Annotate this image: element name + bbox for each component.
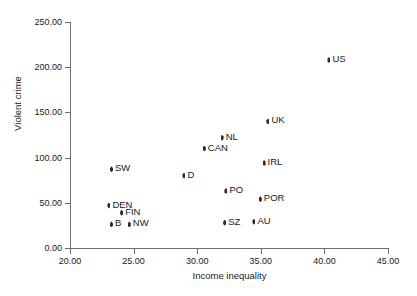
data-point-label: POR [264,192,285,203]
x-axis-tick-label: 35.00 [236,256,286,266]
plot-area: USUKNLCANIRLSWDPOPORDENFINSZAUBNW [70,22,388,248]
data-point-label: CAN [208,142,228,153]
y-axis-tick-label: 50.00 [16,198,62,208]
data-point-label: SZ [228,216,240,227]
data-point-marker [182,173,185,179]
data-point-marker [107,203,110,209]
scatter-chart: 0.0050.00100.00150.00200.00250.00 20.002… [0,0,417,296]
x-axis-tick-label: 25.00 [109,256,159,266]
data-point-label: PO [229,184,243,195]
data-point-label: SW [115,162,130,173]
data-point-marker [224,188,227,194]
data-point-label: FIN [125,206,140,217]
data-point-marker [252,219,255,225]
data-point-label: US [332,53,345,64]
data-point-marker [263,160,266,166]
data-point-label: D [187,169,194,180]
x-axis-line [70,248,389,249]
data-point-label: AU [257,215,270,226]
x-axis-tick [197,249,198,254]
y-axis-tick-label: 200.00 [16,62,62,72]
x-axis-tick-label: 45.00 [363,256,413,266]
x-axis-tick [134,249,135,254]
data-point-label: NW [133,217,149,228]
data-point-marker [120,210,123,216]
y-axis-tick-label: 250.00 [16,17,62,27]
x-axis-tick-label: 40.00 [299,256,349,266]
data-point-marker [128,221,131,227]
x-axis-tick [70,249,71,254]
data-point-label: NL [226,131,238,142]
data-point-marker [110,221,113,227]
data-point-marker [223,220,226,226]
y-axis-title: Violent crime [12,54,23,154]
data-point-marker [221,135,224,141]
data-point-marker [203,146,206,152]
x-axis-tick [261,249,262,254]
data-point-label: B [115,217,121,228]
x-axis-tick-label: 30.00 [172,256,222,266]
y-axis-tick-label: 100.00 [16,153,62,163]
data-point-marker [327,57,330,63]
x-axis-tick [324,249,325,254]
y-axis-tick-label: 0.00 [16,243,62,253]
x-axis-title: Income inequality [70,270,389,281]
data-point-label: UK [271,114,284,125]
data-point-label: IRL [268,156,283,167]
data-point-marker [259,196,262,202]
y-axis-tick-label: 150.00 [16,107,62,117]
x-axis-tick [388,249,389,254]
x-axis-tick-label: 20.00 [45,256,95,266]
data-point-marker [110,166,113,172]
data-point-marker [266,118,269,124]
